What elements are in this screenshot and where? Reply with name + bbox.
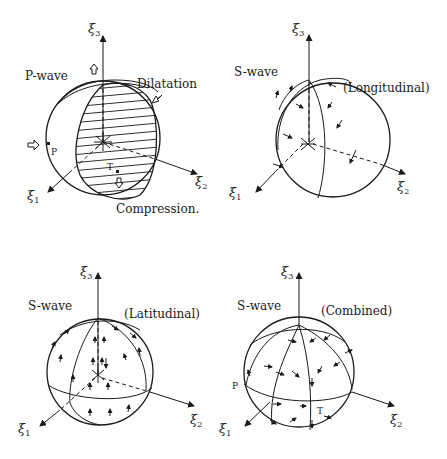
t-axis-point — [116, 170, 119, 173]
dilatation-arrow-icon — [90, 64, 98, 74]
axis-xi1 — [256, 172, 275, 192]
axis-xi3-label: ξ3 — [281, 264, 293, 281]
panel-title: S-wave — [237, 299, 281, 313]
motion-arrows — [52, 326, 140, 416]
dilatation-arrow-icon — [28, 140, 39, 150]
axis-xi3-label: ξ3 — [88, 21, 100, 38]
t-label: T — [317, 406, 323, 416]
motion-arrows — [273, 83, 356, 167]
sphere-outline — [276, 83, 390, 197]
panel-title: P-wave — [25, 69, 68, 83]
axis-xi2-label: ξ2 — [195, 174, 207, 191]
axis-xi1 — [245, 402, 270, 426]
panel-subtitle: (Longitudinal) — [343, 81, 430, 95]
meridian — [309, 80, 325, 198]
dilatation-label: Dilatation — [137, 77, 197, 91]
t-label: T — [107, 162, 113, 172]
panel-title: S-wave — [234, 65, 278, 79]
axis-xi1-label: ξ1 — [27, 188, 39, 205]
axis-xi2-label: ξ2 — [390, 412, 402, 429]
panel-title: S-wave — [28, 299, 72, 313]
equator — [48, 385, 152, 399]
axis-xi1-label: ξ1 — [219, 421, 231, 438]
panel-subtitle: (Latitudinal) — [124, 307, 200, 321]
axis-xi3-label: ξ3 — [80, 264, 92, 281]
axis-xi3-label: ξ3 — [292, 21, 304, 38]
panel-subtitle: (Combined) — [321, 304, 392, 318]
axis-xi2-label: ξ2 — [190, 412, 202, 429]
panel-p-wave: P-wave Dilatation Compression. P T ξ3 ξ1… — [25, 21, 207, 216]
compression-label: Compression. — [116, 202, 199, 216]
axis-xi2 — [352, 392, 394, 406]
source-icon — [92, 367, 104, 383]
axis-xi1-label: ξ1 — [229, 185, 241, 202]
panel-s-wave-latitudinal: S-wave (Latitudinal) ξ3 ξ1 ξ2 — [18, 264, 202, 438]
axis-xi2 — [380, 164, 405, 174]
radiation-pattern-figure: P-wave Dilatation Compression. P T ξ3 ξ1… — [0, 0, 447, 459]
axis-xi2 — [150, 392, 194, 406]
equator — [244, 384, 352, 401]
axis-xi1 — [40, 410, 60, 426]
dilatation-arrow-icon — [152, 95, 162, 103]
p-axis-point — [47, 142, 50, 145]
source-icon — [301, 138, 315, 150]
axis-xi2-label: ξ2 — [397, 179, 409, 196]
axis-xi2 — [158, 160, 197, 174]
axis-xi1-label: ξ1 — [18, 421, 30, 438]
panel-s-wave-longitudinal: S-wave (Longitudinal) ξ3 ξ1 ξ2 — [229, 21, 430, 202]
p-label: P — [232, 381, 238, 391]
p-label: P — [51, 147, 57, 157]
panel-s-wave-combined: S-wave (Combined) P T ξ3 ξ1 ξ2 — [219, 264, 402, 438]
sphere-outline — [47, 319, 153, 425]
